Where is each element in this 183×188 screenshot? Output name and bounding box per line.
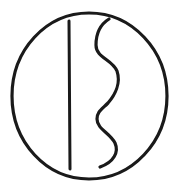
figure-container	[0, 0, 183, 188]
line-drawing-canvas	[0, 0, 183, 188]
canvas-background	[0, 0, 183, 188]
straight-vertical-stroke-icon	[69, 21, 70, 169]
